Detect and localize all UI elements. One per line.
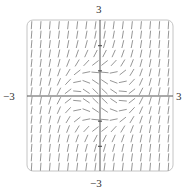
slope-segment	[83, 80, 90, 83]
slope-segment	[131, 50, 133, 58]
slope-segment	[95, 31, 97, 39]
slope-segment	[31, 87, 32, 95]
slope-segment	[168, 153, 169, 161]
slope-segment	[129, 79, 134, 85]
slope-segment	[140, 116, 143, 124]
slope-segment	[68, 163, 69, 171]
slope-segment	[86, 21, 87, 29]
slope-segment	[65, 89, 71, 94]
slope-segment	[57, 107, 60, 114]
slope-segment	[68, 21, 69, 29]
slope-segment	[139, 78, 142, 85]
slope-segment	[73, 100, 81, 101]
slope-segment	[149, 97, 151, 105]
slope-segment	[94, 40, 96, 48]
slope-segment	[149, 69, 151, 77]
slope-segment	[113, 21, 114, 29]
slope-segment	[58, 40, 59, 48]
slope-segment	[95, 21, 96, 29]
slope-segment	[150, 21, 151, 29]
slope-segment	[168, 116, 169, 124]
slope-segment	[31, 153, 32, 161]
slope-segment	[67, 50, 69, 58]
slope-segment	[49, 87, 51, 95]
slope-segment	[40, 50, 41, 58]
slope-segment	[40, 125, 41, 133]
slope-segment	[31, 116, 32, 124]
slope-segment	[168, 87, 169, 95]
slope-segment	[159, 68, 160, 76]
slope-segment	[31, 163, 32, 171]
slope-segment	[94, 50, 98, 57]
slope-segment	[168, 144, 169, 152]
slope-segment	[85, 135, 88, 142]
slope-segment	[112, 135, 115, 142]
slope-segment	[40, 31, 41, 39]
slope-segment	[168, 68, 169, 76]
slope-segment	[31, 68, 32, 76]
slope-segment	[49, 21, 50, 29]
slope-segment	[66, 116, 70, 123]
slope-segment	[168, 40, 169, 48]
slope-segment	[129, 89, 135, 94]
slope-segment	[58, 116, 61, 124]
slope-segment	[49, 125, 51, 133]
slope-segment	[93, 89, 99, 95]
slope-segment	[159, 153, 160, 161]
slope-segment	[101, 119, 109, 120]
slope-segment	[119, 100, 127, 101]
slope-segment	[40, 21, 41, 29]
slope-segment	[168, 50, 169, 58]
slope-segment	[130, 125, 133, 132]
slope-segment	[159, 106, 160, 114]
slope-segment	[129, 98, 135, 103]
slope-segment	[58, 59, 60, 67]
slope-segment	[141, 31, 142, 39]
slope-segment	[159, 59, 160, 67]
slope-segment	[159, 21, 160, 29]
slope-segment	[84, 126, 89, 132]
slope-segment	[131, 153, 132, 161]
slope-segment	[104, 153, 106, 161]
slope-segment	[49, 116, 51, 124]
slope-segment	[122, 144, 124, 152]
slope-segment	[67, 153, 68, 161]
slope-segment	[58, 31, 59, 39]
slope-segment	[92, 108, 99, 112]
slope-segment	[112, 50, 115, 57]
slope-segment	[77, 21, 78, 29]
slope-segment	[122, 31, 123, 39]
slope-segment	[149, 125, 151, 133]
slope-segment	[95, 163, 96, 171]
slope-segment	[31, 134, 32, 142]
slope-segment	[59, 163, 60, 171]
slope-segment	[111, 126, 116, 132]
slope-segment	[95, 153, 97, 161]
slope-segment	[119, 81, 127, 83]
slope-segment	[110, 119, 118, 121]
slope-segment	[82, 119, 90, 121]
slope-segment	[31, 97, 32, 105]
slope-segment	[122, 163, 123, 171]
slope-segment	[74, 117, 80, 122]
slope-segment	[103, 144, 105, 152]
slope-segment	[113, 163, 114, 171]
slope-segment	[168, 78, 169, 86]
slope-segment	[149, 59, 151, 67]
slope-segment	[129, 107, 134, 113]
slope-segment	[101, 72, 109, 73]
slope-segment	[76, 135, 79, 143]
slope-segment	[76, 40, 78, 48]
slope-segment	[58, 50, 60, 58]
slope-segment	[67, 135, 69, 143]
slope-segment	[159, 163, 160, 171]
slope-segment	[140, 59, 142, 67]
slope-segment	[159, 40, 160, 48]
slope-segment	[140, 135, 142, 143]
slope-segment	[150, 153, 151, 161]
slope-segment	[73, 81, 81, 83]
slope-segment	[130, 69, 134, 76]
y-max-label: 3	[96, 4, 102, 15]
slope-segment	[149, 78, 151, 86]
slope-segment	[101, 80, 108, 84]
